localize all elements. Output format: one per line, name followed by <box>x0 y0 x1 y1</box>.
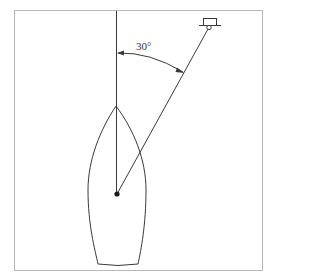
angle-label: 30° <box>136 40 151 52</box>
arc-arrowhead-right-icon <box>176 68 185 74</box>
target-marker-icon <box>199 19 221 30</box>
arc-arrowhead-left-icon <box>117 51 124 56</box>
angle-arc <box>118 53 183 72</box>
pivot-point <box>114 191 119 196</box>
